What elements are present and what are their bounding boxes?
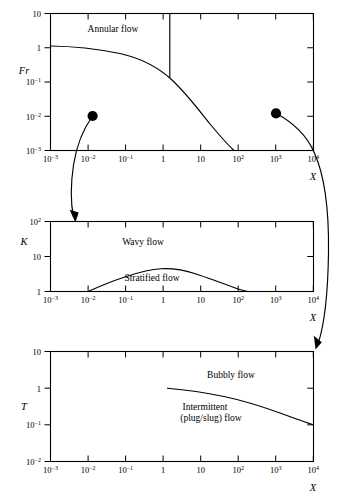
x-tick-label: 10−2 bbox=[81, 154, 96, 164]
x-tick-label: 103 bbox=[270, 295, 282, 305]
y-ticks-left-froude bbox=[45, 14, 51, 151]
y-tick-labels-k: 102 10 1 bbox=[30, 217, 42, 297]
region-label-bubbly-flow: Bubbly flow bbox=[207, 370, 255, 380]
x-tick-label: 1 bbox=[161, 295, 165, 305]
y-tick-label: 1 bbox=[37, 384, 41, 394]
x-tick-label: 10−1 bbox=[118, 465, 133, 475]
x-tick-label: 104 bbox=[308, 295, 320, 305]
chart-t-map: 10−3 10−2 10−1 1 10 102 103 104 10 1 10−… bbox=[21, 347, 319, 494]
x-tick-label: 1 bbox=[161, 154, 165, 164]
y-tick-label: 10−1 bbox=[26, 420, 41, 430]
x-tick-label: 10 bbox=[196, 465, 205, 475]
x-tick-label: 103 bbox=[270, 465, 282, 475]
flow-regime-map-figure: 10−3 10−2 10−1 1 10 102 103 104 10 1 10−… bbox=[0, 0, 338, 501]
x-tick-label: 10−2 bbox=[81, 295, 96, 305]
y-tick-label: 1 bbox=[37, 43, 41, 53]
connector-left-arrowhead bbox=[70, 210, 79, 223]
connector-right-path bbox=[276, 113, 329, 344]
series-annular-boundary bbox=[51, 46, 235, 151]
x-tick-label: 102 bbox=[232, 295, 244, 305]
x-tick-label: 10−1 bbox=[118, 154, 133, 164]
region-label-intermittent-line2: (plug/slug) flow bbox=[180, 413, 242, 424]
y-axis-title-t: T bbox=[21, 401, 28, 412]
x-tick-label: 10−1 bbox=[118, 295, 133, 305]
connector-left-path bbox=[71, 116, 92, 217]
x-tick-labels-froude: 10−3 10−2 10−1 1 10 102 103 104 bbox=[43, 154, 319, 164]
x-tick-label: 103 bbox=[270, 154, 282, 164]
x-axis-title-froude: X bbox=[309, 171, 317, 182]
x-ticks-top-k bbox=[51, 222, 314, 228]
chart-k-map: 10−3 10−2 10−1 1 10 102 103 104 102 10 1… bbox=[19, 217, 319, 324]
y-tick-label: 10−2 bbox=[26, 457, 41, 467]
x-tick-label: 10−3 bbox=[43, 465, 58, 475]
y-tick-labels-t: 10 1 10−1 10−2 bbox=[26, 347, 41, 467]
region-label-annular-flow: Annular flow bbox=[88, 24, 139, 34]
y-tick-label: 1 bbox=[37, 287, 41, 297]
y-axis-title-k: K bbox=[19, 236, 28, 247]
region-label-wavy-flow: Wavy flow bbox=[122, 237, 164, 247]
y-ticks-right-froude bbox=[307, 48, 313, 117]
x-tick-label: 104 bbox=[308, 465, 320, 475]
x-tick-label: 10−3 bbox=[43, 295, 58, 305]
chart-froude-map: 10−3 10−2 10−1 1 10 102 103 104 10 1 10−… bbox=[18, 9, 319, 183]
y-tick-label: 10 bbox=[33, 252, 42, 262]
y-ticks-right-t bbox=[307, 388, 313, 425]
x-ticks-top-t bbox=[51, 352, 314, 358]
x-tick-label: 1 bbox=[161, 465, 165, 475]
plot-frame-k bbox=[51, 222, 314, 292]
y-tick-label: 10−3 bbox=[26, 146, 41, 156]
x-ticks-bottom-froude bbox=[51, 145, 314, 151]
x-tick-label: 10−2 bbox=[81, 465, 96, 475]
x-ticks-top-froude bbox=[51, 14, 314, 20]
y-tick-label: 102 bbox=[30, 217, 42, 227]
connector-right-arrowhead bbox=[314, 336, 322, 350]
y-ticks-left-k bbox=[45, 222, 51, 292]
x-tick-labels-t: 10−3 10−2 10−1 1 10 102 103 104 bbox=[43, 465, 319, 475]
y-ticks-left-t bbox=[45, 352, 51, 462]
x-ticks-bottom-t bbox=[51, 456, 314, 462]
x-axis-title-t: X bbox=[309, 482, 317, 493]
region-label-intermittent-line1: Intermittent bbox=[183, 402, 228, 412]
y-tick-label: 10 bbox=[33, 347, 42, 357]
x-tick-label: 10 bbox=[196, 154, 205, 164]
y-axis-title-froude: Fr bbox=[18, 65, 30, 76]
x-tick-label: 10−3 bbox=[43, 154, 58, 164]
x-tick-label: 102 bbox=[232, 465, 244, 475]
plot-frame-froude bbox=[51, 14, 314, 151]
x-tick-labels-k: 10−3 10−2 10−1 1 10 102 103 104 bbox=[43, 295, 319, 305]
x-tick-label: 10 bbox=[196, 295, 205, 305]
y-tick-labels-froude: 10 1 10−1 10−2 10−3 bbox=[26, 9, 41, 156]
x-tick-label: 102 bbox=[232, 154, 244, 164]
flow-regime-map-svg: 10−3 10−2 10−1 1 10 102 103 104 10 1 10−… bbox=[0, 0, 338, 501]
y-tick-label: 10 bbox=[33, 9, 42, 19]
y-tick-label: 10−2 bbox=[26, 112, 41, 122]
connectors bbox=[70, 113, 329, 349]
y-tick-label: 10−1 bbox=[26, 77, 41, 87]
x-axis-title-k: X bbox=[309, 312, 317, 323]
